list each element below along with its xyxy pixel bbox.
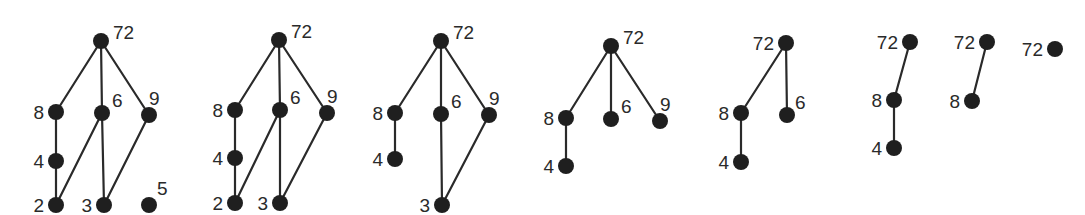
node-9 [141, 107, 157, 123]
node-4 [733, 154, 749, 170]
node-5 [141, 197, 157, 213]
node-label: 72 [954, 32, 975, 53]
node-72 [979, 34, 995, 50]
node-6 [603, 111, 619, 127]
edge-72-6 [101, 41, 102, 113]
node-label: 4 [372, 149, 383, 170]
hasse-diagram-sequence: 7286942357286942372869437286947286472847… [0, 0, 1085, 215]
node-label: 6 [290, 87, 301, 108]
diagram-7: 728 [949, 32, 995, 112]
node-4 [886, 140, 902, 156]
edge-72-9 [611, 46, 660, 121]
node-72 [603, 38, 619, 54]
node-label: 4 [33, 151, 44, 172]
node-4 [48, 153, 64, 169]
node-label: 6 [112, 90, 123, 111]
node-6 [272, 102, 288, 118]
diagram-8: 72 [1022, 39, 1063, 60]
node-72 [271, 32, 287, 48]
edge-9-3 [442, 115, 489, 205]
node-label: 9 [327, 86, 338, 107]
node-6 [433, 106, 449, 122]
node-8 [227, 102, 243, 118]
node-9 [481, 107, 497, 123]
edge-72-6 [786, 43, 787, 115]
node-4 [387, 151, 403, 167]
node-label: 8 [949, 91, 960, 112]
diagram-1: 728694235 [33, 22, 167, 215]
node-label: 72 [1022, 39, 1043, 60]
node-label: 2 [212, 193, 223, 214]
node-label: 9 [660, 94, 671, 115]
node-label: 8 [33, 102, 44, 123]
node-label: 3 [81, 195, 92, 215]
edge-72-9 [101, 41, 149, 115]
edge-9-3 [104, 115, 149, 205]
node-label: 4 [543, 156, 554, 177]
node-label: 72 [877, 32, 898, 53]
diagram-5: 72864 [718, 33, 805, 173]
node-label: 9 [489, 88, 500, 109]
node-6 [779, 107, 795, 123]
node-label: 4 [212, 148, 223, 169]
node-8 [558, 110, 574, 126]
node-label: 72 [623, 27, 644, 48]
node-label: 8 [212, 100, 223, 121]
node-label: 8 [372, 103, 383, 124]
node-2 [227, 195, 243, 211]
edge-6-3 [441, 114, 442, 205]
node-label: 72 [753, 33, 774, 54]
node-label: 8 [543, 108, 554, 129]
edge-72-9 [279, 40, 327, 113]
node-8 [733, 105, 749, 121]
edge-72-8 [235, 40, 279, 110]
node-72 [778, 35, 794, 51]
node-label: 6 [451, 91, 462, 112]
node-4 [227, 150, 243, 166]
node-label: 72 [291, 21, 312, 42]
edge-6-3 [102, 113, 104, 205]
node-label: 6 [795, 92, 806, 113]
node-label: 72 [453, 22, 474, 43]
node-6 [94, 105, 110, 121]
node-8 [48, 104, 64, 120]
node-label: 6 [621, 96, 632, 117]
node-72 [93, 33, 109, 49]
node-2 [48, 197, 64, 213]
node-3 [96, 197, 112, 213]
node-label: 3 [257, 193, 268, 214]
node-72 [433, 33, 449, 49]
node-3 [434, 197, 450, 213]
node-label: 4 [871, 138, 882, 159]
node-72 [902, 34, 918, 50]
diagram-4: 728694 [543, 27, 670, 177]
edge-72-9 [441, 41, 489, 115]
edge-72-8 [566, 46, 611, 118]
node-8 [387, 105, 403, 121]
node-label: 9 [149, 88, 160, 109]
edge-72-6 [279, 40, 280, 110]
node-72 [1047, 41, 1063, 57]
diagram-6: 7284 [871, 32, 918, 159]
diagram-2: 72869423 [212, 21, 337, 214]
node-label: 8 [718, 103, 729, 124]
diagram-3: 7286943 [372, 22, 499, 215]
node-label: 2 [33, 195, 44, 215]
node-label: 3 [419, 195, 430, 215]
node-label: 72 [113, 22, 134, 43]
node-9 [652, 113, 668, 129]
edge-9-3 [280, 113, 327, 203]
node-label: 4 [718, 152, 729, 173]
node-label: 5 [157, 178, 168, 199]
edge-72-8 [56, 41, 101, 112]
node-9 [319, 105, 335, 121]
node-label: 8 [871, 90, 882, 111]
node-8 [886, 92, 902, 108]
node-4 [558, 158, 574, 174]
node-3 [272, 195, 288, 211]
edge-72-8 [395, 41, 441, 113]
node-8 [964, 93, 980, 109]
